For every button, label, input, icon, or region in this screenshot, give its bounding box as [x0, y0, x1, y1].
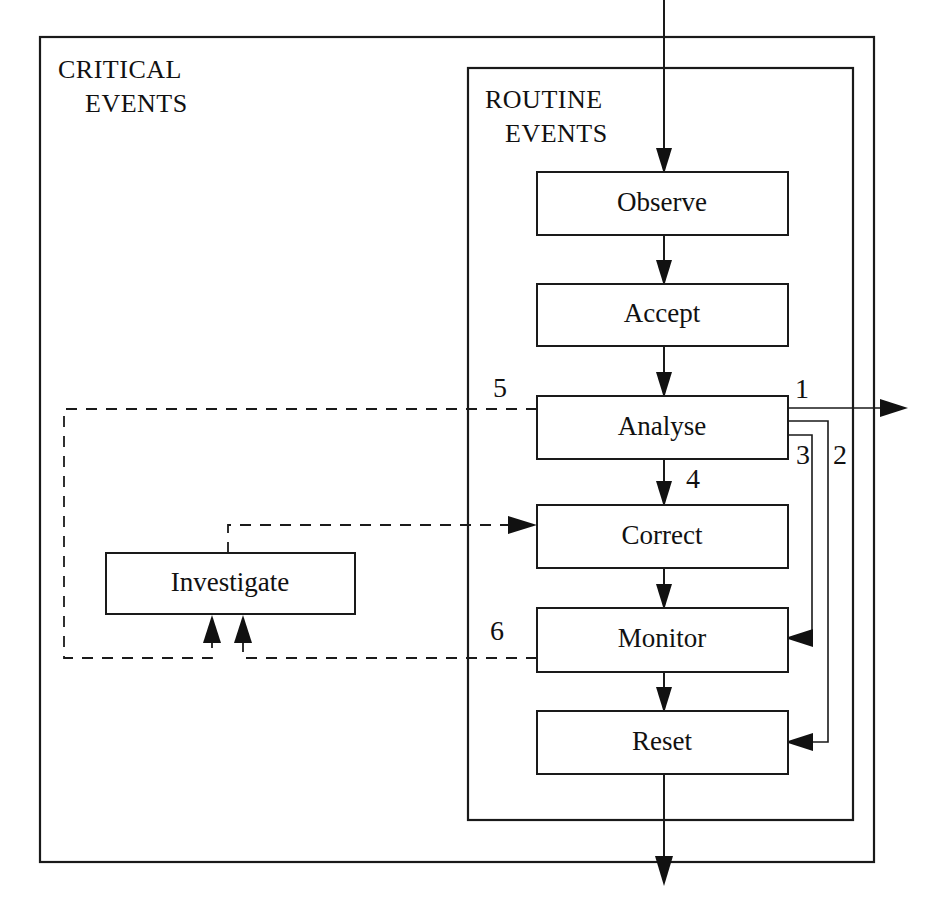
edge-reset-to-external-arrowhead: [655, 856, 673, 886]
edge-label-5: 5: [493, 372, 507, 403]
edge-label-1: 1: [795, 373, 809, 404]
node-observe[interactable]: Observe: [537, 172, 788, 235]
node-investigate[interactable]: Investigate: [106, 553, 355, 614]
edge-analyse-to-investigate-line: [64, 409, 537, 658]
edge-analyse-to-reset-arrowhead: [785, 733, 813, 751]
node-monitor[interactable]: Monitor: [537, 608, 788, 672]
node-accept[interactable]: Accept: [537, 284, 788, 346]
edge-analyse-to-investigate-arrowhead: [203, 615, 221, 643]
edge-investigate-to-correct-line: [228, 525, 522, 553]
edge-accept-to-analyse-arrowhead: [656, 372, 672, 398]
edge-label-3: 3: [796, 439, 810, 470]
diagram-canvas: Observe Accept Analyse Correct Monitor R…: [0, 0, 938, 903]
routine-events-label-line1: ROUTINE: [485, 85, 603, 114]
edge-investigate-to-correct-arrowhead: [508, 516, 537, 534]
node-correct[interactable]: Correct: [537, 505, 788, 568]
node-correct-label: Correct: [622, 520, 703, 550]
node-monitor-label: Monitor: [618, 623, 707, 653]
node-observe-label: Observe: [617, 187, 707, 217]
node-reset-label: Reset: [632, 726, 692, 756]
node-reset[interactable]: Reset: [537, 711, 788, 774]
node-analyse[interactable]: Analyse: [537, 396, 788, 459]
process-flow-diagram: Observe Accept Analyse Correct Monitor R…: [0, 0, 938, 903]
critical-events-label-line1: CRITICAL: [58, 55, 182, 84]
edge-correct-to-monitor-arrowhead: [656, 584, 672, 610]
edge-monitor-to-reset-arrowhead: [656, 687, 672, 713]
edge-analyse-to-external-right-arrowhead: [880, 399, 908, 417]
routine-events-label-line2: EVENTS: [505, 119, 608, 148]
node-accept-label: Accept: [624, 298, 701, 328]
edge-observe-to-accept-arrowhead: [656, 260, 672, 286]
critical-events-label-line2: EVENTS: [85, 89, 188, 118]
edge-analyse-to-correct-arrowhead: [656, 481, 672, 507]
node-analyse-label: Analyse: [618, 411, 706, 441]
edge-label-4: 4: [686, 463, 700, 494]
edge-analyse-to-monitor-arrowhead: [785, 629, 813, 647]
edge-label-2: 2: [833, 439, 847, 470]
node-investigate-label: Investigate: [171, 567, 289, 597]
edge-input-to-observe-arrowhead: [656, 148, 672, 174]
edge-monitor-to-investigate-arrowhead: [234, 615, 252, 643]
edge-label-6: 6: [490, 615, 504, 646]
